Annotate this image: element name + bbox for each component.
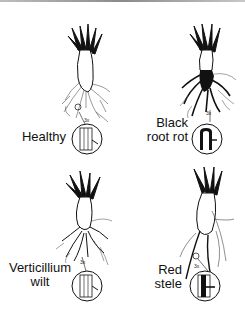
magnification-label: 3x: [80, 259, 85, 265]
stele-cross-section-inset: [70, 122, 104, 156]
condition-label-red-stele: Red stele: [142, 263, 182, 291]
panel-red-stele: 3x Red stele: [122, 161, 244, 322]
panel-black-root-rot: 3x Black root rot: [122, 0, 244, 161]
condition-label-verticillium-wilt: Verticillium wilt: [4, 261, 76, 289]
panel-verticillium-wilt: 3x Verticillium wilt: [0, 161, 122, 322]
stele-cross-section-inset: [190, 122, 224, 156]
condition-label-healthy: Healthy: [4, 130, 66, 144]
magnification-label: 3x: [206, 110, 211, 116]
stele-cross-section-inset: [70, 269, 104, 303]
stele-cross-section-inset: [188, 269, 222, 303]
red-stele-plant-illustration: [122, 161, 245, 322]
panel-healthy: 3x Healthy: [0, 0, 122, 161]
condition-label-black-root-rot: Black root rot: [128, 116, 188, 144]
